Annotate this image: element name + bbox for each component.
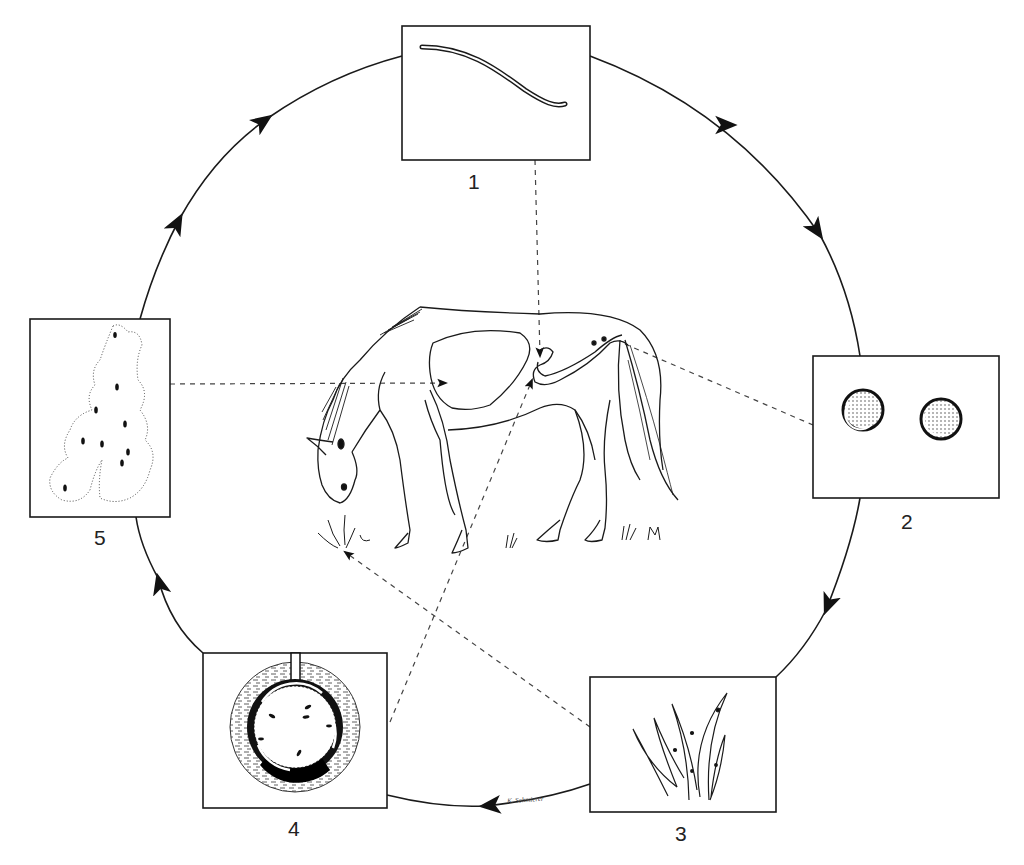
horse-icon bbox=[307, 307, 678, 553]
cycle-arc-5-1 bbox=[140, 218, 180, 319]
link-1-to-intestine bbox=[535, 160, 540, 356]
stage-box-1 bbox=[402, 26, 590, 160]
stage-label-3: 3 bbox=[675, 823, 687, 844]
stage-box-4 bbox=[203, 653, 387, 808]
stage-box-5 bbox=[30, 319, 170, 517]
liver-outline bbox=[429, 331, 529, 410]
stage-label-1: 1 bbox=[468, 171, 480, 192]
stage-box-3 bbox=[590, 677, 776, 812]
cycle-arc-1-2 bbox=[590, 56, 820, 235]
cycle-arc-2-3 bbox=[826, 498, 860, 610]
stage-label-2: 2 bbox=[901, 511, 913, 532]
life-cycle-diagram bbox=[0, 0, 1024, 865]
dashed-links bbox=[170, 160, 813, 727]
link-5-to-liver bbox=[170, 383, 446, 384]
stage-box-2 bbox=[813, 356, 999, 498]
intestine-outline bbox=[533, 335, 628, 385]
stage-label-5: 5 bbox=[94, 527, 106, 548]
link-rectum-to-2 bbox=[625, 344, 813, 425]
stage-label-4: 4 bbox=[288, 818, 300, 839]
cycle-arc-4-5 bbox=[158, 578, 203, 653]
